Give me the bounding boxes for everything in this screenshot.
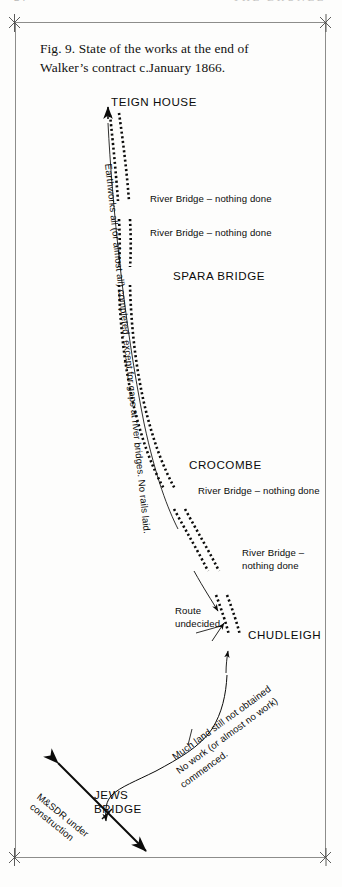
figure-plate-frame: Fig. 9. State of the works at the end of… xyxy=(15,22,326,858)
place-label-chudleigh: CHUDLEIGH xyxy=(248,628,321,641)
place-label-jews-bridge-line-2: BRIDGE xyxy=(94,802,142,815)
place-label-jews-bridge-line-1: JEWS xyxy=(94,788,128,801)
figure-page: 24 THE BRUNEL Fig. 9. State of the works… xyxy=(0,0,342,887)
annotation-route-undecided-line-2: undecided xyxy=(175,618,220,629)
place-label-teign-house: TEIGN HOUSE xyxy=(111,95,197,108)
annotation-route-undecided-line-1: Route xyxy=(175,605,201,616)
place-label-crocombe: CROCOMBE xyxy=(189,458,262,471)
railway-route-map xyxy=(16,23,327,859)
chudleigh-approach-arrow xyxy=(226,651,228,673)
earthworks-seg-e-inner xyxy=(227,595,240,635)
running-head-page-number: 24 xyxy=(14,0,26,3)
annotation-river-bridge-4-line-2: nothing done xyxy=(242,560,299,571)
annotation-river-bridge-4-line-1: River Bridge – xyxy=(242,547,304,558)
earthworks-seg-e-outer xyxy=(216,595,229,635)
annotation-river-bridge-3: River Bridge – nothing done xyxy=(198,485,320,496)
earthworks-seg-b-inner xyxy=(130,219,131,267)
annotation-river-bridge-1: River Bridge – nothing done xyxy=(150,193,272,204)
earthworks-seg-a-inner xyxy=(119,113,129,201)
running-head-title: THE BRUNEL xyxy=(233,0,326,3)
place-label-spara-bridge: SPARA BRIDGE xyxy=(173,269,265,282)
annotation-river-bridge-2: River Bridge – nothing done xyxy=(150,227,272,238)
running-head: 24 THE BRUNEL xyxy=(0,0,342,6)
